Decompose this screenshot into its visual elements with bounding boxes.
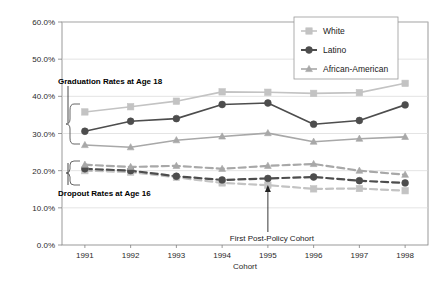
data-point-square (402, 188, 408, 194)
data-point-circle (219, 177, 226, 184)
policy-annotation-label: First Post-Policy Cohort (230, 234, 315, 243)
x-tick-label: 1997 (350, 251, 368, 260)
data-point-circle (402, 180, 409, 187)
x-tick-label: 1993 (167, 251, 185, 260)
data-point-square (82, 109, 88, 115)
data-point-circle (310, 121, 317, 128)
y-tick-label: 20.0% (32, 167, 55, 176)
legend-label-white[interactable]: White (323, 26, 345, 36)
data-point-circle (127, 118, 134, 125)
data-point-circle (356, 177, 363, 184)
data-point-circle (81, 128, 88, 135)
legend-label-african-american[interactable]: African-American (323, 64, 388, 74)
data-point-circle (173, 173, 180, 180)
dropout-annotation-label: Dropout Rates at Age 16 (58, 189, 151, 198)
data-point-square (306, 28, 312, 34)
graduation-annotation-label: Graduation Rates at Age 18 (58, 77, 163, 86)
x-axis-title: Cohort (233, 262, 258, 271)
y-tick-label: 40.0% (32, 92, 55, 101)
x-tick-label: 1992 (122, 251, 140, 260)
data-point-circle (402, 101, 409, 108)
data-point-circle (219, 101, 226, 108)
y-tick-label: 0.0% (37, 241, 55, 250)
data-point-square (310, 90, 316, 96)
legend-label-latino[interactable]: Latino (323, 45, 346, 55)
data-point-square (402, 80, 408, 86)
x-tick-label: 1995 (259, 251, 277, 260)
chart-container: 0.0%10.0%20.0%30.0%40.0%50.0%60.0%199119… (0, 0, 446, 281)
data-point-square (219, 89, 225, 95)
data-point-circle (264, 175, 271, 182)
data-point-square (356, 185, 362, 191)
x-tick-label: 1996 (305, 251, 323, 260)
data-point-circle (356, 117, 363, 124)
data-point-circle (306, 47, 313, 54)
data-point-square (265, 89, 271, 95)
y-tick-label: 60.0% (32, 18, 55, 27)
data-point-square (310, 186, 316, 192)
y-tick-label: 30.0% (32, 130, 55, 139)
y-tick-label: 50.0% (32, 55, 55, 64)
y-tick-label: 10.0% (32, 204, 55, 213)
x-tick-label: 1998 (396, 251, 414, 260)
data-point-circle (310, 174, 317, 181)
data-point-square (173, 98, 179, 104)
data-point-square (127, 104, 133, 110)
data-point-circle (173, 115, 180, 122)
x-tick-label: 1991 (76, 251, 94, 260)
data-point-circle (264, 100, 271, 107)
x-tick-label: 1994 (213, 251, 231, 260)
line-chart: 0.0%10.0%20.0%30.0%40.0%50.0%60.0%199119… (0, 0, 446, 281)
data-point-square (356, 89, 362, 95)
